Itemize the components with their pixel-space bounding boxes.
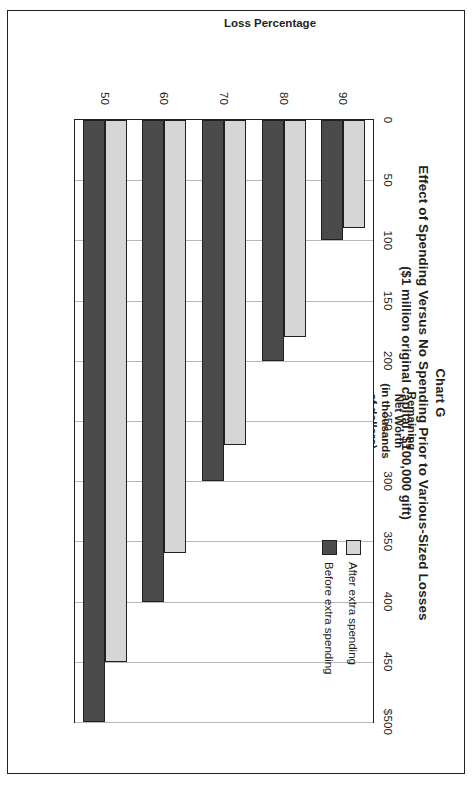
category-axis-title: Loss Percentage bbox=[224, 17, 316, 29]
value-tick-label: 50 bbox=[382, 174, 394, 187]
plot-area: 050100150200250300350400450$500 90807060… bbox=[74, 119, 374, 723]
legend-swatch-before-icon bbox=[322, 540, 337, 555]
category-tick-label: 80 bbox=[278, 92, 290, 105]
legend-swatch-after-icon bbox=[346, 540, 361, 555]
bar-after-extra-spending bbox=[343, 120, 365, 228]
value-tick-label: 100 bbox=[382, 230, 394, 250]
legend: After extra spending Before extra spendi… bbox=[313, 540, 361, 675]
rotated-figure-wrapper: Chart G Effect of Spending Versus No Spe… bbox=[0, 0, 474, 786]
bar-before-extra-spending bbox=[142, 120, 164, 602]
bar-before-extra-spending bbox=[202, 120, 224, 481]
bar-before-extra-spending bbox=[83, 120, 105, 722]
value-tick-label: 300 bbox=[382, 471, 394, 491]
value-tick-label: 250 bbox=[382, 411, 394, 431]
value-tick-label: 150 bbox=[382, 291, 394, 311]
category-tick-label: 90 bbox=[337, 92, 349, 105]
value-tick-label: $500 bbox=[382, 709, 394, 735]
chart-figure: Chart G Effect of Spending Versus No Spe… bbox=[22, 23, 452, 763]
bar-after-extra-spending bbox=[224, 120, 246, 445]
category-tick-label: 60 bbox=[158, 92, 170, 105]
legend-label-after: After extra spending bbox=[348, 562, 360, 665]
category-tick-label: 50 bbox=[99, 92, 111, 105]
chart-label: Chart G bbox=[432, 23, 448, 763]
legend-label-before: Before extra spending bbox=[324, 562, 336, 675]
bar-before-extra-spending bbox=[262, 120, 284, 361]
legend-item-after: After extra spending bbox=[346, 540, 361, 675]
value-tick-label: 450 bbox=[382, 652, 394, 672]
legend-item-before: Before extra spending bbox=[322, 540, 337, 675]
bar-before-extra-spending bbox=[321, 120, 343, 240]
bar-after-extra-spending bbox=[164, 120, 186, 553]
bar-after-extra-spending bbox=[105, 120, 127, 662]
value-tick-label: 0 bbox=[382, 117, 394, 124]
value-tick-label: 400 bbox=[382, 592, 394, 612]
bar-after-extra-spending bbox=[284, 120, 306, 337]
category-tick-label: 70 bbox=[218, 92, 230, 105]
value-tick-label: 350 bbox=[382, 531, 394, 551]
gridline bbox=[75, 722, 373, 723]
value-tick-label: 200 bbox=[382, 351, 394, 371]
